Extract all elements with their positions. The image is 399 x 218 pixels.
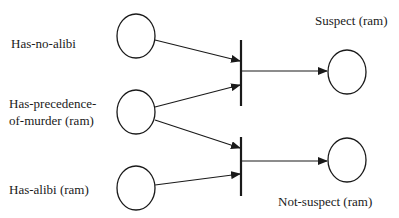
label-not-suspect: Not-suspect (ram)	[278, 194, 372, 210]
petri-net-diagram: Has-no-alibi Has-precedence- of-murder (…	[0, 0, 399, 218]
place-has-no-alibi	[117, 14, 155, 58]
label-has-precedence-line2: of-murder (ram)	[9, 113, 94, 129]
place-has-alibi	[117, 166, 155, 210]
label-suspect: Suspect (ram)	[315, 13, 388, 29]
arc-precedence-to-t2	[155, 120, 240, 148]
arc-alibi-to-t2	[155, 174, 240, 185]
place-suspect	[328, 50, 366, 94]
arc-no-alibi-to-t1	[155, 40, 240, 61]
label-has-alibi: Has-alibi (ram)	[9, 182, 89, 198]
place-not-suspect	[328, 138, 366, 182]
place-has-precedence-of-murder	[117, 90, 155, 134]
label-has-no-alibi: Has-no-alibi	[11, 36, 76, 52]
arc-precedence-to-t1	[155, 85, 240, 107]
label-has-precedence-line1: Has-precedence-	[9, 96, 96, 112]
